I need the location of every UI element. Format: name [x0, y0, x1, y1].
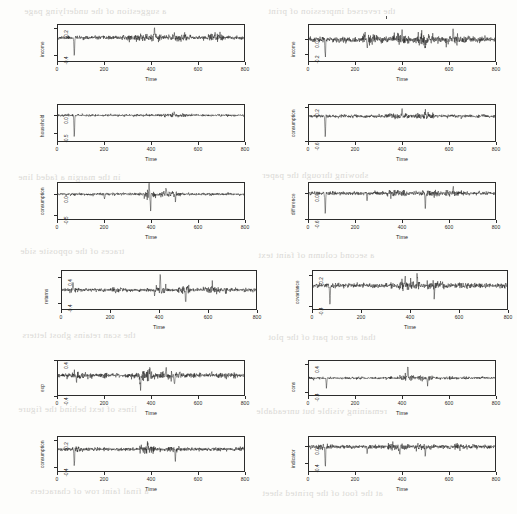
- y-tick-mark: [305, 39, 308, 40]
- x-tick-label: 400: [141, 400, 161, 406]
- y-tick-mark: [54, 467, 57, 468]
- y-tick-label: -0.4: [315, 461, 320, 475]
- x-tick-mark: [245, 220, 246, 223]
- x-tick-label: 200: [345, 66, 365, 72]
- x-tick-mark: [496, 472, 497, 475]
- x-tick-mark: [449, 396, 450, 399]
- y-tick-mark: [54, 215, 57, 216]
- x-tick-label: 600: [439, 400, 459, 406]
- x-tick-label: 800: [235, 146, 255, 152]
- plot-frame: [308, 436, 496, 472]
- y-axis-label: household: [40, 114, 45, 137]
- x-tick-label: 0: [298, 400, 318, 406]
- x-axis-label: Time: [139, 324, 179, 330]
- plot-frame: [308, 24, 496, 62]
- plot-frame: [57, 104, 245, 142]
- x-tick-mark: [459, 310, 460, 313]
- y-tick-mark: [54, 28, 57, 29]
- bleed-through-text: remaining visible but unreadable: [256, 406, 387, 416]
- x-tick-label: 400: [149, 314, 169, 320]
- plot-frame: [308, 182, 496, 220]
- x-axis-label: Time: [131, 156, 171, 162]
- x-tick-mark: [496, 142, 497, 145]
- x-tick-label: 600: [439, 476, 459, 482]
- x-tick-mark: [151, 62, 152, 65]
- y-axis-label: consumption: [40, 440, 45, 468]
- x-tick-label: 0: [47, 476, 67, 482]
- top-tick-mark: [386, 16, 387, 19]
- x-tick-mark: [104, 220, 105, 223]
- bleed-through-text: a second column of faint text: [258, 250, 374, 260]
- x-tick-label: 800: [486, 146, 506, 152]
- x-tick-mark: [449, 220, 450, 223]
- x-tick-mark: [245, 62, 246, 65]
- bleed-through-text: showing through the paper: [262, 170, 368, 180]
- bleed-through-text: the reversed impression of print: [268, 6, 395, 16]
- x-tick-label: 0: [298, 146, 318, 152]
- x-tick-label: 800: [486, 400, 506, 406]
- y-tick-mark: [54, 194, 57, 195]
- bleed-through-text: at the foot of the printed sheet: [262, 488, 383, 498]
- x-tick-mark: [198, 472, 199, 475]
- x-tick-label: 800: [235, 224, 255, 230]
- y-tick-mark: [54, 115, 57, 116]
- x-tick-mark: [208, 310, 209, 313]
- x-tick-label: 600: [188, 224, 208, 230]
- y-axis-label: indicator: [291, 449, 296, 468]
- y-tick-label: 0.2: [64, 438, 69, 452]
- x-tick-mark: [312, 310, 313, 313]
- x-tick-mark: [402, 62, 403, 65]
- y-tick-mark: [309, 306, 312, 307]
- y-tick-mark: [54, 360, 57, 361]
- x-tick-label: 400: [141, 146, 161, 152]
- y-tick-mark: [309, 275, 312, 276]
- y-tick-label: 0.2: [315, 106, 320, 120]
- y-tick-label: 0.2: [64, 27, 69, 41]
- x-tick-label: 400: [141, 66, 161, 72]
- x-tick-label: 600: [188, 476, 208, 482]
- x-tick-mark: [245, 472, 246, 475]
- y-tick-mark: [305, 446, 308, 447]
- plot-frame: [57, 436, 245, 472]
- x-tick-mark: [57, 62, 58, 65]
- bleed-through-text: traces of the opposite side: [20, 246, 124, 256]
- x-tick-label: 200: [345, 476, 365, 482]
- x-tick-label: 200: [351, 314, 371, 320]
- x-tick-label: 600: [188, 66, 208, 72]
- y-tick-mark: [54, 133, 57, 134]
- x-tick-label: 400: [400, 314, 420, 320]
- plot-frame: [57, 182, 245, 220]
- y-tick-label: 0.4: [68, 276, 73, 290]
- x-tick-mark: [508, 310, 509, 313]
- y-axis-label: consumption: [291, 109, 296, 137]
- x-tick-label: 200: [94, 224, 114, 230]
- x-tick-mark: [402, 396, 403, 399]
- x-tick-mark: [57, 220, 58, 223]
- y-tick-label: 0.0: [315, 191, 320, 205]
- x-tick-mark: [449, 62, 450, 65]
- x-tick-mark: [355, 142, 356, 145]
- x-tick-label: 600: [449, 314, 469, 320]
- y-tick-mark: [305, 463, 308, 464]
- plot-frame: [308, 104, 496, 142]
- bleed-through-text: lines of text behind the figure: [18, 404, 137, 414]
- x-tick-mark: [151, 472, 152, 475]
- x-tick-mark: [308, 220, 309, 223]
- x-tick-mark: [355, 220, 356, 223]
- x-tick-mark: [496, 396, 497, 399]
- y-tick-label: 0.0: [315, 38, 320, 52]
- y-tick-mark: [305, 193, 308, 194]
- plot-frame: [57, 24, 245, 62]
- x-tick-mark: [245, 396, 246, 399]
- x-axis-label: Time: [382, 156, 422, 162]
- x-tick-mark: [151, 142, 152, 145]
- y-tick-label: 0.0: [315, 445, 320, 459]
- y-tick-label: 0.0: [64, 113, 69, 127]
- x-tick-label: 200: [345, 146, 365, 152]
- x-tick-label: 800: [247, 314, 267, 320]
- x-tick-mark: [57, 396, 58, 399]
- x-axis-label: Time: [382, 486, 422, 492]
- x-tick-mark: [57, 142, 58, 145]
- x-tick-mark: [245, 142, 246, 145]
- x-axis-label: Time: [131, 76, 171, 82]
